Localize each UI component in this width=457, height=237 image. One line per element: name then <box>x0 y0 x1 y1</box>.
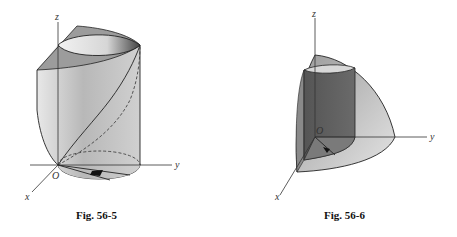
y-axis-label: y <box>174 159 180 170</box>
figure-56-5: z y x O Fig. 56-5 <box>24 11 180 221</box>
figure-caption: Fig. 56-6 <box>324 209 365 221</box>
origin-label: O <box>316 125 323 136</box>
figure-caption: Fig. 56-5 <box>76 209 117 221</box>
figures-canvas: z y x O Fig. 56-5 z y x O Fig. 56-6 <box>0 0 457 237</box>
origin-label: O <box>52 170 59 181</box>
x-axis-label: x <box>24 191 30 202</box>
z-axis-label: z <box>54 11 59 22</box>
y-axis-label: y <box>429 131 435 142</box>
x-axis-label: x <box>274 191 280 202</box>
figure-56-6: z y x O Fig. 56-6 <box>274 8 435 221</box>
z-axis-label: z <box>311 8 316 19</box>
